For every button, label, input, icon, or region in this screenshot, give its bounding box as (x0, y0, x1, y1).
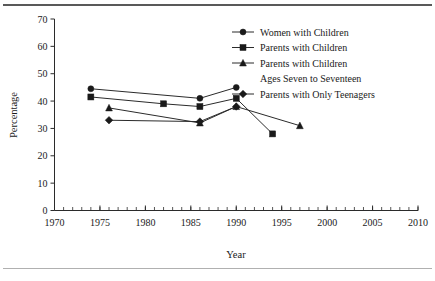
series-line (91, 97, 273, 134)
y-tick-label: 20 (38, 150, 48, 161)
y-tick-label: 70 (38, 14, 48, 25)
data-point (88, 86, 94, 92)
x-tick-label: 2005 (363, 217, 383, 228)
legend-marker-circle-icon (240, 29, 246, 35)
legend-marker-square-icon (240, 45, 246, 51)
x-tick-label: 1975 (90, 217, 110, 228)
x-axis-minor-ticks (55, 207, 419, 211)
data-point (106, 104, 113, 111)
x-tick-label: 1970 (45, 217, 65, 228)
data-point (197, 95, 203, 101)
series-line (109, 107, 300, 126)
data-point (233, 95, 239, 101)
data-point (197, 104, 203, 110)
data-point (233, 84, 239, 90)
series-line (91, 87, 236, 98)
legend-item-3: Parents with ChildrenAges Seven to Seven… (232, 58, 361, 85)
y-tick-label: 10 (38, 178, 48, 189)
legend-item-2: Parents with Children (232, 42, 347, 53)
data-point (88, 94, 94, 100)
x-tick-label: 1995 (272, 217, 292, 228)
y-axis-title: Percentage (8, 92, 19, 138)
y-tick-label: 50 (38, 68, 48, 79)
y-tick-label: 40 (38, 96, 48, 107)
data-point (105, 116, 113, 124)
data-point (270, 131, 276, 137)
y-tick-label: 30 (38, 123, 48, 134)
y-tick-label: 60 (38, 41, 48, 52)
y-axis-ticks: 010203040506070 (38, 14, 55, 217)
legend-label: Parents with Children (260, 42, 347, 53)
x-tick-label: 1990 (226, 217, 246, 228)
legend-label: Parents with Children (260, 58, 347, 69)
plot-area: 010203040506070 197019751980198519901995… (0, 0, 435, 281)
legend-label-continued: Ages Seven to Seventeen (260, 73, 361, 84)
legend-item-1: Women with Children (232, 27, 349, 38)
x-tick-label: 1980 (135, 217, 155, 228)
legend-item-4: Parents with Only Teenagers (232, 89, 375, 100)
legend-marker-diamond-icon (239, 90, 247, 98)
series-2 (88, 94, 276, 137)
x-tick-label: 2000 (317, 217, 337, 228)
chart-legend: Women with ChildrenParents with Children… (232, 27, 375, 100)
series-line (109, 107, 236, 122)
chart-svg: 010203040506070 197019751980198519901995… (0, 0, 435, 281)
x-axis-title: Year (226, 249, 246, 260)
y-tick-label: 0 (43, 205, 48, 216)
figure-chart-labor-force-participation: 010203040506070 197019751980198519901995… (0, 0, 435, 281)
x-tick-label: 1985 (181, 217, 201, 228)
legend-label: Parents with Only Teenagers (260, 89, 375, 100)
series-3 (106, 103, 304, 129)
x-tick-label: 2010 (408, 217, 428, 228)
legend-label: Women with Children (260, 27, 349, 38)
data-point (161, 101, 167, 107)
